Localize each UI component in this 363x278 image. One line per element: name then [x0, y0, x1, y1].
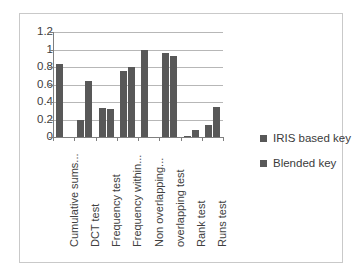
x-axis-category-label: Frequency test — [111, 143, 122, 247]
x-axis-tick-mark — [223, 137, 224, 141]
bar-group — [96, 32, 117, 137]
bar[interactable] — [99, 108, 106, 137]
x-axis-tick-mark — [53, 137, 54, 141]
bar-group — [181, 32, 202, 137]
bar-group — [117, 32, 138, 137]
bar[interactable] — [192, 130, 199, 137]
x-axis-category-label: overlapping test — [175, 143, 186, 247]
bar-group — [138, 32, 159, 137]
legend-label: Blended key — [273, 157, 336, 169]
x-axis-tick-mark — [181, 137, 182, 141]
x-axis-tick-mark — [74, 137, 75, 141]
x-axis-tick-mark — [138, 137, 139, 141]
bar[interactable] — [107, 109, 114, 137]
chart-container: 00.20.40.60.811.2 Cumulative sums...DCT … — [19, 13, 343, 263]
legend-swatch-icon — [260, 135, 267, 142]
x-axis-category-label: Cumulative sums... — [69, 143, 80, 247]
bar-group — [74, 32, 95, 137]
legend-label: IRIS based key — [273, 132, 351, 144]
legend-item[interactable]: Blended key — [260, 157, 363, 169]
bar[interactable] — [205, 125, 212, 137]
bar[interactable] — [120, 71, 127, 137]
y-axis-tick-labels: 00.20.40.60.811.2 — [9, 32, 53, 137]
bar[interactable] — [184, 136, 191, 137]
bar-group — [53, 32, 74, 137]
y-axis-tick-label: 0.4 — [13, 96, 53, 108]
bar[interactable] — [56, 64, 63, 138]
bar-group — [159, 32, 180, 137]
x-axis-category-label: Frequency within... — [132, 143, 143, 247]
x-axis-tick-mark — [96, 137, 97, 141]
y-axis-tick-label: 0.6 — [13, 79, 53, 91]
y-axis-tick-label: 0 — [13, 131, 53, 143]
bar[interactable] — [170, 56, 177, 137]
x-axis-tick-mark — [202, 137, 203, 141]
y-axis-tick-label: 0.2 — [13, 114, 53, 126]
y-axis-tick-label: 1.2 — [13, 26, 53, 38]
x-axis-tick-mark — [117, 137, 118, 141]
x-axis-tick-mark — [159, 137, 160, 141]
bar[interactable] — [128, 67, 135, 137]
chart-legend: IRIS based keyBlended key — [260, 132, 363, 182]
bar[interactable] — [85, 81, 92, 137]
bar[interactable] — [141, 50, 148, 138]
x-axis-category-label: Non overlapping... — [154, 143, 165, 247]
x-axis-category-label: DCT test — [90, 143, 101, 247]
bar[interactable] — [162, 53, 169, 137]
x-axis-category-labels: Cumulative sums...DCT testFrequency test… — [53, 143, 223, 251]
legend-item[interactable]: IRIS based key — [260, 132, 363, 144]
y-axis-tick-label: 0.8 — [13, 61, 53, 73]
legend-swatch-icon — [260, 160, 267, 167]
y-axis-tick-label: 1 — [13, 44, 53, 56]
bar[interactable] — [77, 120, 84, 138]
bar[interactable] — [213, 107, 220, 137]
bar-group — [202, 32, 223, 137]
x-axis-category-label: Rank test — [196, 143, 207, 247]
x-axis-category-label: Runs test — [217, 143, 228, 247]
